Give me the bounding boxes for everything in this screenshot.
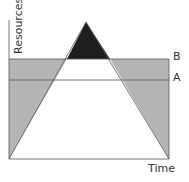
y-axis-label: Resources (12, 0, 25, 54)
peak-triangle (67, 22, 110, 59)
resource-diagram (0, 0, 189, 182)
level-b-label: B (173, 50, 181, 63)
x-axis-label: Time (148, 162, 175, 175)
level-a-label: A (173, 71, 181, 84)
